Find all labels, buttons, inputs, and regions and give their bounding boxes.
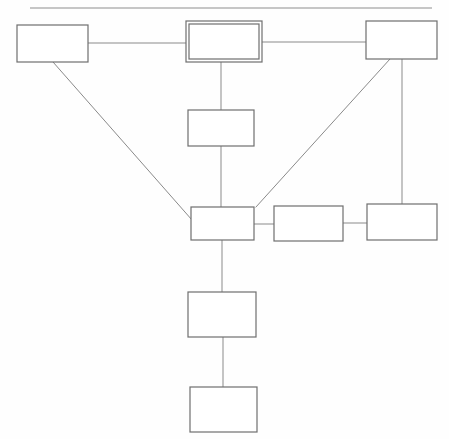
- box-bottom-center[interactable]: [190, 387, 257, 432]
- block-diagram: [0, 0, 449, 439]
- diagram-page: [0, 0, 449, 439]
- box-lower-center[interactable]: [188, 292, 256, 337]
- node-layer: [17, 21, 437, 432]
- connector-top-right-to-hub-diagonal[interactable]: [256, 59, 390, 207]
- box-second-row-center[interactable]: [188, 110, 254, 146]
- box-top-right[interactable]: [366, 21, 437, 59]
- box-far-right-outline: [367, 204, 437, 240]
- box-top-right-outline: [366, 21, 437, 59]
- box-middle-right-outline: [274, 206, 343, 241]
- box-middle-right[interactable]: [274, 206, 343, 241]
- box-top-left[interactable]: [17, 25, 88, 62]
- box-center-hub-outline: [191, 207, 254, 240]
- box-lower-center-outline: [188, 292, 256, 337]
- box-second-row-center-outline: [188, 110, 254, 146]
- box-top-center-emphasized[interactable]: [186, 21, 262, 62]
- box-top-left-outline: [17, 25, 88, 62]
- box-far-right[interactable]: [367, 204, 437, 240]
- box-top-center-emphasized-outline: [186, 21, 262, 62]
- connector-top-left-to-hub-diagonal[interactable]: [53, 62, 192, 220]
- box-center-hub[interactable]: [191, 207, 254, 240]
- box-bottom-center-outline: [190, 387, 257, 432]
